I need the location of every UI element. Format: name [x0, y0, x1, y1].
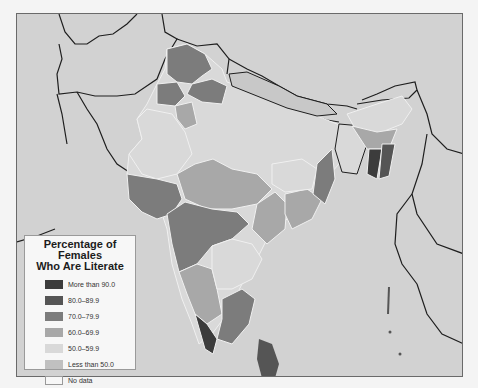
legend-swatch: [45, 360, 63, 369]
legend-item: 50.0–59.9: [29, 340, 131, 356]
legend-item: No data: [29, 372, 131, 388]
map-legend: Percentage of Females Who Are Literate M…: [24, 235, 136, 370]
legend-label: 80.0–89.9: [68, 297, 99, 304]
legend-label: More than 90.0: [68, 281, 115, 288]
legend-label: 70.0–79.9: [68, 313, 99, 320]
legend-item: More than 90.0: [29, 276, 131, 292]
legend-label: No data: [68, 377, 93, 384]
legend-item: Less than 50.0: [29, 356, 131, 372]
legend-swatch: [45, 328, 63, 337]
legend-title-line2: Who Are Literate: [29, 261, 131, 272]
legend-label: 60.0–69.9: [68, 329, 99, 336]
legend-swatch: [45, 376, 63, 385]
legend-item: 70.0–79.9: [29, 308, 131, 324]
legend-swatch: [45, 280, 63, 289]
legend-title-line1: Percentage of Females: [29, 239, 131, 261]
legend-item: 80.0–89.9: [29, 292, 131, 308]
legend-label: Less than 50.0: [68, 361, 114, 368]
legend-swatch: [45, 296, 63, 305]
legend-swatch: [45, 312, 63, 321]
legend-title: Percentage of Females Who Are Literate: [29, 239, 131, 272]
legend-swatch: [45, 344, 63, 353]
legend-item: 60.0–69.9: [29, 324, 131, 340]
legend-label: 50.0–59.9: [68, 345, 99, 352]
